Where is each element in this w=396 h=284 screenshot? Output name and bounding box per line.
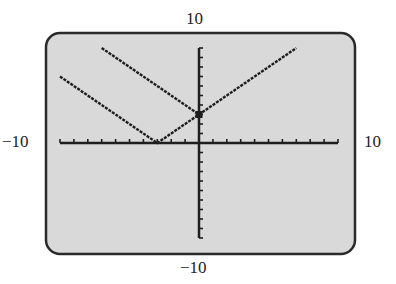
calculator-screen — [0, 0, 396, 284]
intersection-point — [196, 111, 203, 118]
